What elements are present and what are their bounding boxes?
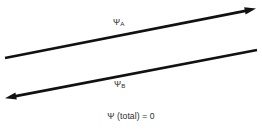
psi-a-label: ΨA — [113, 18, 124, 27]
psi-a-subscript: A — [120, 20, 124, 27]
psi-total-label: Ψ (total) = 0 — [0, 112, 262, 121]
psi-b-subscript: B — [121, 82, 125, 89]
wavefunction-diagram: ΨA ΨB Ψ (total) = 0 — [0, 0, 262, 130]
psi-b-label: ΨB — [114, 80, 125, 89]
